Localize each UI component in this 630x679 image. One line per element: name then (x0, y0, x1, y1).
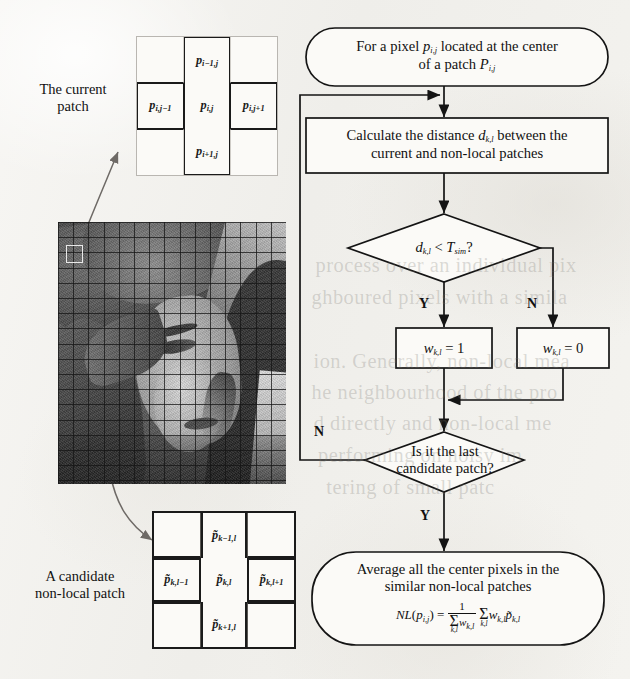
start-line2-a: of a patch (419, 56, 480, 72)
decision-T-sub: sim (454, 247, 466, 256)
lena-sample-image (58, 222, 286, 484)
patch-cell-mid-left: pi,j−1 (137, 83, 184, 129)
candidate-patch-caption: A candidate non-local patch (14, 568, 146, 602)
patch-cell-center: pi,j (184, 83, 231, 129)
weight-one-node: wk,l = 1 (396, 340, 492, 358)
current-patch-caption-line1: The current (14, 81, 132, 98)
start-P: P (480, 56, 489, 72)
patch-cell-top-center: pi−1,j (184, 37, 231, 83)
patch-cell-bottom-center: pi+1,j (184, 129, 231, 175)
patch-cell-top-left (137, 37, 184, 83)
calculate-node: Calculate the distance dk,l between the … (310, 127, 604, 162)
start-line1-a: For a pixel (356, 38, 423, 54)
branch-label-sim-no: N (521, 296, 543, 313)
formula-den-sigma-wrap: Σk,l (450, 614, 459, 634)
candidate-patch-grid: p̃k−1,l p̃k,l−1 p̃k,l p̃k,l+1 p̃k+1,l (152, 511, 296, 649)
patch-cell-mid-right: pi,j+1 (230, 83, 277, 129)
w0-sub: k,l (552, 348, 560, 357)
w0-w: w (543, 340, 553, 356)
patch-cell-label: pi+1,j (196, 144, 218, 159)
patch-cell-center: p̃k,l (201, 558, 248, 603)
patch-cell-bottom-center: p̃k+1,l (201, 602, 248, 647)
patch-cell-mid-right: p̃k,l+1 (247, 558, 294, 603)
start-P-sub: i,j (489, 65, 496, 74)
patch-cell-label: pi,j+1 (243, 98, 265, 113)
formula-NL: NL (396, 608, 412, 623)
decision-last-node: Is it the last candidate patch? (382, 443, 508, 477)
start-node-line1: For a pixel pi,j located at the center (312, 38, 602, 56)
patch-cell-bottom-left (137, 129, 184, 175)
formula-den-sigma-index: k,l (450, 627, 459, 633)
formula-sum-wrap: Σk,l (479, 607, 488, 627)
decision-last-line2: candidate patch? (382, 460, 508, 477)
patch-cell-label: p̃k,l−1 (164, 572, 188, 587)
formula-denominator: Σk,lwk,l (448, 614, 477, 634)
decision-q: ? (466, 239, 472, 255)
decision-d: d (415, 239, 422, 255)
candidate-patch-caption-line2: non-local patch (14, 585, 146, 602)
branch-label-last-no: N (308, 424, 330, 441)
patch-cell-label: p̃k+1,l (212, 617, 236, 632)
formula-eq: = (434, 608, 448, 623)
current-patch-caption: The current patch (14, 81, 132, 115)
candidate-patch-caption-line1: A candidate (14, 568, 146, 585)
patch-cell-bottom-right (230, 129, 277, 175)
formula-sum-index: k,l (479, 621, 488, 627)
patch-cell-label: p̃k−1,l (212, 528, 236, 543)
sim-no-line (540, 248, 553, 327)
current-patch-caption-line2: patch (14, 98, 132, 115)
formula-den-w-sub: k,l (466, 621, 474, 630)
weight-zero-merge (448, 368, 563, 400)
current-patch-selection-marker (66, 245, 83, 263)
patch-cell-bottom-right (247, 602, 294, 647)
patch-cell-label: pi−1,j (196, 53, 218, 68)
branch-label-sim-yes: Y (413, 296, 435, 313)
patch-cell-label: pi,j (201, 98, 214, 113)
calculate-node-line1: Calculate the distance dk,l between the (310, 127, 604, 145)
decision-sim-node: dk,l < Tsim? (384, 239, 504, 257)
patch-cell-top-center: p̃k−1,l (201, 513, 248, 558)
patch-cell-top-right (247, 513, 294, 558)
patch-cell-label: p̃k,l+1 (260, 572, 284, 587)
w0-eq: = 0 (561, 340, 584, 356)
calc-d-sub: k,l (486, 135, 494, 144)
patch-cell-label: p̃k,l (217, 572, 232, 587)
formula-term-p-sub: k,l (512, 615, 520, 624)
weight-zero-node: wk,l = 0 (517, 340, 609, 358)
start-node-line2: of a patch Pi,j (312, 56, 602, 74)
calc-d: d (478, 127, 485, 143)
patch-cell-top-left (154, 513, 201, 558)
w1-eq: = 1 (442, 340, 465, 356)
branch-label-last-yes: Y (414, 508, 436, 525)
decision-d-sub: k,l (423, 247, 431, 256)
average-line1: Average all the center pixels in the (318, 561, 598, 578)
calc-line1-b: between the (494, 127, 568, 143)
decision-last-line1: Is it the last (382, 443, 508, 460)
calc-line1-a: Calculate the distance (347, 127, 479, 143)
w1-w: w (424, 340, 434, 356)
patch-cell-bottom-left (154, 602, 201, 647)
start-line1-b: located at the center (437, 38, 558, 54)
patch-cell-mid-left: p̃k,l−1 (154, 558, 201, 603)
average-node: Average all the center pixels in the sim… (318, 561, 598, 633)
formula-fraction: 1Σk,lwk,l (448, 600, 477, 633)
decision-op: < (431, 239, 447, 255)
patch-search-grid-overlay (58, 222, 286, 484)
average-formula: NL(pi,j) = 1Σk,lwk,lΣk,lwk,lp̃k,l (318, 600, 598, 633)
patch-cell-label: pi,j−1 (149, 98, 171, 113)
calculate-node-line2: current and non-local patches (310, 145, 604, 162)
start-node: For a pixel pi,j located at the center o… (312, 38, 602, 75)
patch-cell-top-right (230, 37, 277, 83)
current-patch-grid: pi−1,j pi,j−1 pi,j pi,j+1 pi+1,j (136, 36, 278, 176)
average-line2: similar non-local patches (318, 578, 598, 595)
w1-sub: k,l (433, 348, 441, 357)
